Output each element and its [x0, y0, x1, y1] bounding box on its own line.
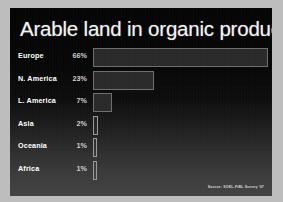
presentation-slide: Arable land in organic production Europe… [10, 8, 272, 196]
bar-track [93, 116, 268, 135]
chart-row: Oceania1% [10, 138, 272, 161]
value-label: 66% [55, 51, 87, 60]
chart-row: Europe66% [10, 48, 272, 71]
bar-track [93, 71, 268, 90]
bar [93, 71, 154, 90]
bar-chart: Europe66%N. America23%L. America7%Asia2%… [10, 48, 272, 183]
value-label: 1% [55, 164, 87, 173]
slide-title: Arable land in organic production [20, 17, 266, 41]
value-label: 23% [55, 74, 87, 83]
bar [93, 116, 98, 135]
bar-track [93, 48, 268, 67]
page-background: Arable land in organic production Europe… [0, 0, 283, 202]
bar-track [93, 93, 268, 112]
bar-track [93, 161, 268, 180]
source-attribution: Source: SOEL-FiBL Survey '07 [208, 185, 264, 189]
bar [93, 138, 97, 157]
chart-row: Asia2% [10, 116, 272, 139]
bar [93, 48, 268, 67]
bar [93, 93, 112, 112]
value-label: 1% [55, 141, 87, 150]
bar [93, 161, 97, 180]
bar-track [93, 138, 268, 157]
value-label: 2% [55, 119, 87, 128]
chart-row: Africa1% [10, 161, 272, 184]
value-label: 7% [55, 96, 87, 105]
chart-row: N. America23% [10, 71, 272, 94]
chart-row: L. America7% [10, 93, 272, 116]
